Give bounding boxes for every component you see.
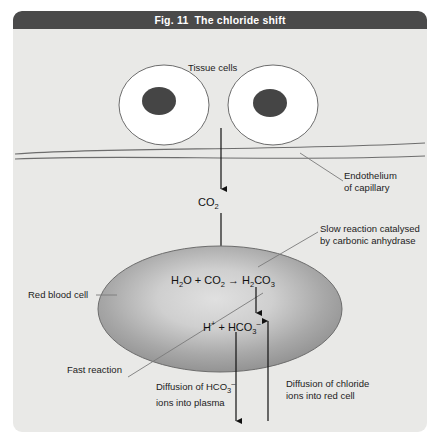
- endothelium-upper-membrane: [15, 143, 425, 154]
- red-blood-cell: [98, 246, 342, 372]
- label-diffusion-hco3-text: Diffusion of HCO: [156, 381, 227, 392]
- equation-chloride-ion: Cl–: [244, 429, 259, 432]
- carbonic-acid-middle: CO: [254, 274, 271, 286]
- diagram-canvas: Tissue cells Endothelium of capillary Sl…: [13, 29, 427, 432]
- label-slow-reaction: Slow reaction catalysed by carbonic anhy…: [320, 223, 427, 246]
- label-diffusion-hco3-line2: ions into plasma: [156, 397, 225, 408]
- label-diffusion-cl-line2: ions into red cell: [286, 390, 355, 401]
- label-slow-reaction-line1: Slow reaction catalysed: [320, 223, 420, 234]
- endothelium-lower-membrane: [15, 156, 425, 159]
- co2-subscript: 2: [215, 202, 219, 211]
- figure-panel: Fig. 11 The chloride shift: [13, 11, 427, 432]
- hydrogen-ion-charge: +: [211, 319, 215, 328]
- carbonic-acid-subscript-2: 3: [271, 280, 275, 289]
- tissue-cell-left-nucleus: [142, 87, 176, 115]
- chloride-symbol: Cl: [244, 431, 254, 432]
- chloride-charge: –: [254, 429, 258, 432]
- water-symbol: H: [171, 274, 179, 286]
- label-tissue-cells: Tissue cells: [188, 62, 237, 74]
- reaction-arrow-icon: →: [228, 274, 239, 286]
- bicarbonate-symbol: HCO: [228, 321, 252, 333]
- co2-symbol: CO: [198, 196, 215, 208]
- reactant-co2-subscript: 2: [221, 280, 225, 289]
- equation-dissociation-products: H+ + HCO3–: [203, 319, 261, 336]
- water-tail: O: [183, 274, 192, 286]
- carbonic-acid-symbol: H: [242, 274, 250, 286]
- bicarbonate-subscript: 3: [252, 327, 256, 336]
- label-diffusion-of-bicarbonate: Diffusion of HCO3– ions into plasma: [156, 378, 261, 408]
- label-slow-reaction-line2: by carbonic anhydrase: [320, 235, 416, 246]
- label-diffusion-of-chloride: Diffusion of chloride ions into red cell: [286, 378, 398, 401]
- figure-title-bar: Fig. 11 The chloride shift: [13, 11, 427, 29]
- label-red-blood-cell: Red blood cell: [28, 289, 88, 301]
- label-endothelium-of-capillary: Endothelium of capillary: [344, 170, 422, 193]
- equation-plus-sign: +: [195, 274, 201, 286]
- figure-number: Fig. 11: [154, 14, 188, 26]
- label-endothelium-line2: of capillary: [344, 182, 389, 193]
- dissociation-plus-sign: +: [218, 321, 224, 333]
- bicarbonate-charge: –: [257, 319, 261, 328]
- label-fast-reaction: Fast reaction: [67, 364, 122, 376]
- label-diffusion-hco3-charge: –: [231, 379, 235, 388]
- tissue-cell-right-nucleus: [253, 89, 287, 117]
- label-diffusion-cl-line1: Diffusion of chloride: [286, 378, 369, 389]
- reactant-co2-symbol: CO: [204, 274, 221, 286]
- hydrogen-ion-symbol: H: [203, 321, 211, 333]
- equation-carbonic-anhydrase-reaction: H2O + CO2 → H2CO3: [171, 274, 275, 289]
- label-endothelium-line1: Endothelium: [344, 170, 397, 181]
- equation-carbon-dioxide: CO2: [198, 196, 219, 211]
- endothelium-leader-line: [300, 153, 343, 181]
- figure-title: The chloride shift: [194, 14, 285, 26]
